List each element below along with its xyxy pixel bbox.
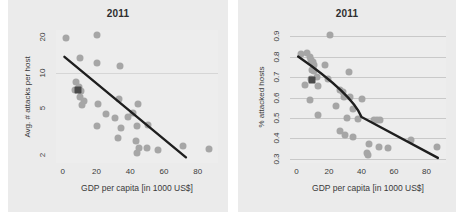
x-tick-label: 80 — [422, 167, 431, 176]
panel-right-title: 2011 — [238, 8, 456, 19]
trend-line — [290, 30, 446, 163]
panel-left-plot-area — [56, 30, 218, 163]
x-tick-label: 40 — [357, 167, 366, 176]
y-tick-label: 0.5 — [272, 112, 281, 123]
y-tick-label: 0.4 — [272, 133, 281, 144]
x-tick-label: 40 — [126, 167, 135, 176]
x-tick-label: 0 — [294, 167, 298, 176]
x-tick-label: 20 — [92, 167, 101, 176]
x-tick-label: 60 — [160, 167, 169, 176]
y-tick-label: 20 — [38, 33, 47, 42]
panel-left-y-axis-label: Avg. # attacks per host — [23, 56, 32, 137]
x-tick-label: 20 — [325, 167, 334, 176]
x-tick-label: 80 — [193, 167, 202, 176]
chart-panel-left: 2011 Avg. # attacks per host GDP per cap… — [8, 0, 228, 212]
y-tick-label: 0.9 — [272, 31, 281, 42]
x-tick-label: 0 — [61, 167, 65, 176]
y-tick-label: 10 — [38, 68, 47, 77]
y-tick-label: 0.8 — [272, 51, 281, 62]
chart-panel-right: 2011 % attacked hosts GDP per capita [in… — [238, 0, 456, 212]
figure-root: 2011 Avg. # attacks per host GDP per cap… — [0, 0, 464, 220]
panel-right-x-axis-label: GDP per capita [in 1000 US$] — [290, 183, 446, 193]
panel-left-x-axis-label: GDP per capita [in 1000 US$] — [56, 183, 218, 193]
panel-left-title: 2011 — [8, 8, 228, 19]
y-tick-label: 0.3 — [272, 153, 281, 164]
panel-right-plot-area — [290, 30, 446, 163]
y-tick-label: 0.6 — [272, 92, 281, 103]
panel-right-y-axis-label: % attacked hosts — [257, 66, 266, 127]
trend-line — [56, 30, 218, 163]
y-tick-label: 5 — [38, 106, 47, 110]
x-tick-label: 60 — [390, 167, 399, 176]
y-tick-label: 2 — [38, 152, 47, 156]
y-tick-label: 0.7 — [272, 71, 281, 82]
